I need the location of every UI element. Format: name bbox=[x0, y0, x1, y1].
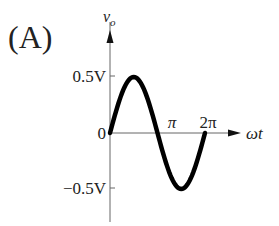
y-axis-arrow-icon bbox=[107, 30, 114, 43]
chart-canvas: (A) vo ωt 0.5V 0 −0.5V π 2π bbox=[0, 0, 279, 226]
y-axis-label: vo bbox=[103, 8, 116, 28]
y-tick-label-neg: −0.5V bbox=[63, 179, 107, 198]
y-tick-label-zero: 0 bbox=[98, 124, 107, 143]
panel-label: (A) bbox=[8, 19, 52, 55]
x-tick-label-pi: π bbox=[168, 113, 177, 132]
x-axis-label: ωt bbox=[246, 124, 264, 143]
x-axis-arrow-icon bbox=[228, 130, 241, 137]
x-tick-label-2pi: 2π bbox=[199, 113, 217, 132]
y-tick-label-pos: 0.5V bbox=[72, 67, 106, 86]
